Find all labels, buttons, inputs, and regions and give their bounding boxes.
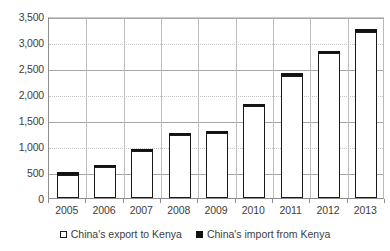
y-axis-tick-label: 1,500 — [4, 116, 44, 127]
bar-segment-export[interactable] — [243, 106, 265, 198]
hollow-square-icon — [60, 231, 67, 238]
bar-group[interactable] — [169, 132, 191, 198]
bar-segment-export[interactable] — [281, 76, 303, 198]
bar-segment-export[interactable] — [318, 53, 340, 198]
bar-segment-export[interactable] — [131, 151, 153, 198]
bar-segment-import[interactable] — [94, 165, 116, 167]
bar-group[interactable] — [318, 51, 340, 198]
y-axis-tick-label: 2,000 — [4, 90, 44, 101]
x-axis-tick-label: 2011 — [272, 204, 309, 216]
bar-segment-import[interactable] — [281, 73, 303, 76]
legend-entry[interactable]: China's import from Kenya — [196, 228, 330, 240]
bar-group[interactable] — [57, 173, 79, 198]
bar-segment-import[interactable] — [131, 149, 153, 151]
x-axis-tickmark — [384, 199, 385, 203]
x-axis-tickmark — [123, 199, 124, 203]
bar-segment-import[interactable] — [355, 29, 377, 32]
x-axis-tickmark — [347, 199, 348, 203]
bar-segment-import[interactable] — [57, 172, 79, 174]
x-axis: 200520062007200820092010201120122013 — [48, 204, 384, 220]
x-axis-tick-label: 2013 — [347, 204, 384, 216]
bar-group[interactable] — [94, 165, 116, 198]
plot-area — [48, 17, 384, 199]
bar-chart-figure: 3,5003,0002,5002,0001,5001,0005000 20052… — [0, 0, 390, 251]
bar-segment-import[interactable] — [318, 51, 340, 54]
bar-segment-import[interactable] — [243, 104, 265, 106]
x-axis-tickmark — [235, 199, 236, 203]
x-axis-tickmark — [85, 199, 86, 203]
x-axis-tick-label: 2007 — [123, 204, 160, 216]
bar-segment-import[interactable] — [169, 133, 191, 135]
x-axis-tickmark — [48, 199, 49, 203]
bar-group[interactable] — [355, 29, 377, 198]
y-axis-tick-label: 0 — [4, 194, 44, 205]
x-axis-tickmark — [160, 199, 161, 203]
bar-group[interactable] — [206, 131, 228, 198]
y-axis: 3,5003,0002,5002,0001,5001,0005000 — [0, 0, 44, 251]
bar-segment-export[interactable] — [355, 32, 377, 198]
x-axis-tick-label: 2008 — [160, 204, 197, 216]
x-axis-tickmark — [197, 199, 198, 203]
y-axis-tick-label: 1,000 — [4, 142, 44, 153]
bar-group[interactable] — [243, 104, 265, 198]
legend-label: China's import from Kenya — [207, 228, 330, 240]
x-axis-tick-label: 2010 — [235, 204, 272, 216]
y-axis-tick-label: 3,000 — [4, 38, 44, 49]
y-axis-tick-label: 3,500 — [4, 12, 44, 23]
legend-entry[interactable]: China's export to Kenya — [60, 228, 182, 240]
bar-segment-export[interactable] — [169, 135, 191, 198]
x-axis-tickmark — [309, 199, 310, 203]
bar-group[interactable] — [281, 73, 303, 198]
bars-layer — [49, 18, 383, 198]
x-axis-tick-label: 2012 — [309, 204, 346, 216]
x-axis-tickmark — [272, 199, 273, 203]
bar-segment-import[interactable] — [206, 131, 228, 133]
filled-square-icon — [196, 231, 203, 238]
legend-label: China's export to Kenya — [71, 228, 182, 240]
x-axis-tick-label: 2009 — [197, 204, 234, 216]
bar-segment-export[interactable] — [94, 167, 116, 198]
bar-segment-export[interactable] — [57, 175, 79, 198]
bar-group[interactable] — [131, 149, 153, 198]
y-axis-tick-label: 500 — [4, 168, 44, 179]
x-axis-tick-label: 2006 — [85, 204, 122, 216]
chart-legend: China's export to KenyaChina's import fr… — [0, 228, 390, 240]
y-axis-tick-label: 2,500 — [4, 64, 44, 75]
x-axis-tick-label: 2005 — [48, 204, 85, 216]
bar-segment-export[interactable] — [206, 133, 228, 198]
